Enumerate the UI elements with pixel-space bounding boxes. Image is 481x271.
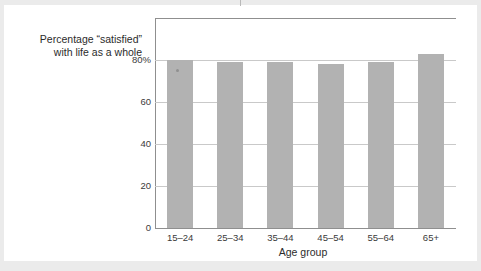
- plot-area: [155, 18, 456, 229]
- print-speck-icon: [176, 69, 179, 72]
- y-axis-tick-labels: 020406080%: [107, 18, 151, 229]
- bar-15–24: [167, 60, 193, 228]
- x-axis-title: Age group: [148, 246, 458, 258]
- bar-55–64: [368, 62, 394, 228]
- y-tick-label-80: 80%: [111, 54, 151, 65]
- bar-25–34: [217, 62, 243, 228]
- figure-page: Percentage “satisfied” with life as a wh…: [0, 0, 481, 271]
- y-tick-label-60: 60: [111, 96, 151, 107]
- bar-35–44: [267, 62, 293, 228]
- x-tick-label-65+: 65+: [401, 232, 461, 243]
- crop-mark-icon: [240, 0, 241, 6]
- y-tick-label-0: 0: [111, 222, 151, 233]
- y-tick-label-20: 20: [111, 180, 151, 191]
- x-axis-tick-labels: 15–2425–3435–4445–5455–6465+: [155, 232, 456, 246]
- y-tick-label-40: 40: [111, 138, 151, 149]
- x-axis-line: [155, 228, 456, 229]
- bar-series: [155, 18, 456, 228]
- bar-45–54: [318, 64, 344, 228]
- bar-65+: [418, 54, 444, 228]
